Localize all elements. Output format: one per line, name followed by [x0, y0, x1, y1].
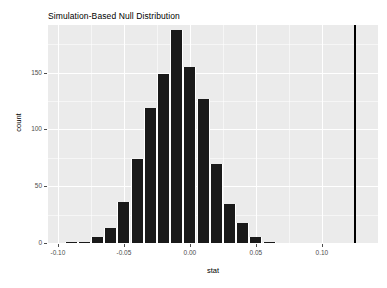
y-axis-title: count: [14, 93, 23, 153]
histogram-bar: [236, 223, 249, 243]
histogram-bar: [197, 99, 210, 243]
y-axis-tick-label: 150: [31, 69, 42, 76]
histogram-bar: [78, 242, 91, 243]
grid-line-major-vertical: [322, 25, 323, 243]
histogram-bar: [210, 164, 223, 243]
x-axis-tick-label: 0.10: [316, 249, 329, 256]
histogram-bar: [157, 74, 170, 243]
histogram-bar: [65, 242, 78, 243]
x-axis-tick-mark: [124, 244, 125, 247]
histogram-bar: [117, 202, 130, 243]
grid-line-major-horizontal: [48, 73, 378, 74]
plot-panel: [48, 25, 378, 243]
x-axis-title: stat: [48, 266, 378, 275]
x-axis-tick-mark: [58, 244, 59, 247]
x-axis-tick-label: -0.05: [116, 249, 131, 256]
grid-line-major-vertical: [58, 25, 59, 243]
observed-statistic-line-icon: [354, 25, 356, 243]
grid-line-minor-horizontal: [48, 158, 378, 159]
y-axis-tick-mark: [44, 73, 47, 74]
y-axis-tick-label: 100: [31, 125, 42, 132]
y-axis-tick-mark: [44, 129, 47, 130]
histogram-bar: [104, 228, 117, 243]
histogram-bar: [183, 67, 196, 243]
histogram-bar: [144, 108, 157, 243]
grid-line-major-vertical: [256, 25, 257, 243]
histogram-bar: [131, 159, 144, 243]
histogram-bar: [249, 237, 262, 243]
x-axis-tick-label: 0.05: [250, 249, 263, 256]
y-axis-tick-label: 0: [38, 239, 42, 246]
x-axis-tick-mark: [190, 244, 191, 247]
grid-line-minor-horizontal: [48, 44, 378, 45]
grid-line-minor-horizontal: [48, 101, 378, 102]
x-axis-tick-mark: [322, 244, 323, 247]
y-axis-tick-mark: [44, 243, 47, 244]
grid-line-minor-vertical: [289, 25, 290, 243]
histogram-chart: Simulation-Based Null Distribution 05010…: [0, 0, 387, 288]
grid-line-minor-vertical: [91, 25, 92, 243]
histogram-bar: [223, 204, 236, 243]
y-axis-tick-mark: [44, 186, 47, 187]
histogram-bar: [91, 237, 104, 243]
chart-title: Simulation-Based Null Distribution: [48, 11, 180, 21]
histogram-bar: [263, 242, 276, 243]
histogram-bar: [170, 30, 183, 243]
y-axis-tick-label: 50: [35, 182, 42, 189]
x-axis-tick-label: 0.00: [184, 249, 197, 256]
x-axis-tick-mark: [256, 244, 257, 247]
grid-line-major-horizontal: [48, 129, 378, 130]
x-axis-tick-label: -0.10: [50, 249, 65, 256]
